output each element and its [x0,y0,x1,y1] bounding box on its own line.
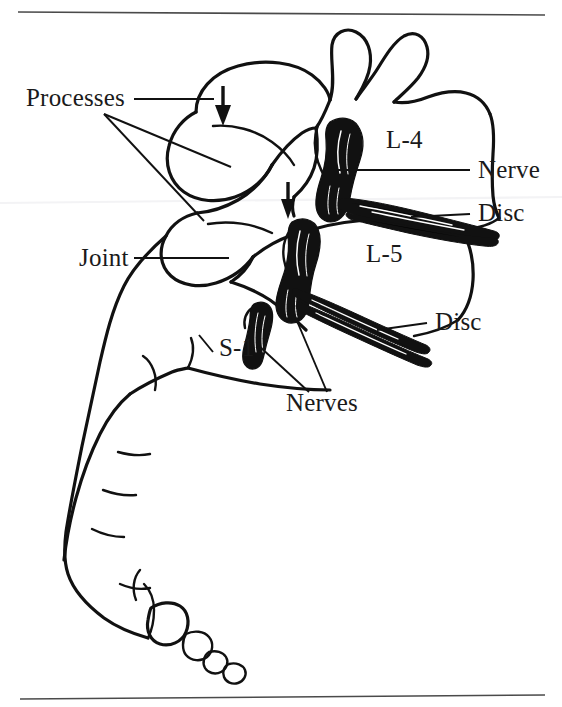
figure-root: Processes Joint L-4 L-5 S-1 Nerve Disc D… [0,0,562,707]
label-nerves: Nerves [286,389,358,416]
label-processes: Processes [26,84,125,111]
label-joint: Joint [79,244,129,271]
top-horizontal-rule [18,12,545,15]
leader-nerves-l5 [297,321,327,392]
label-disc-lower: Disc [435,308,482,335]
spine-diagram: Processes Joint L-4 L-5 S-1 Nerve Disc D… [0,0,562,707]
label-l4: L-4 [386,126,423,153]
label-nerve: Nerve [478,156,540,183]
downward-arrow-upper-facet [215,86,231,126]
leader-processes-joint [104,114,204,221]
leader-s1-tick [199,335,213,352]
label-disc-upper: Disc [478,199,525,226]
label-s1: S-1 [219,334,254,361]
disc-l4-l5 [338,198,499,246]
label-l5: L-5 [366,240,403,267]
disc-l5-s1 [292,288,432,367]
bottom-horizontal-rule [20,695,545,699]
